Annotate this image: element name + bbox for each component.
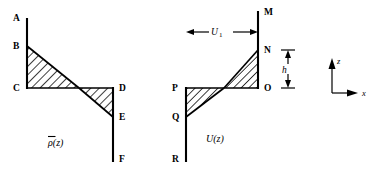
label-point-A: A xyxy=(13,13,20,23)
label-point-R: R xyxy=(172,154,179,164)
label-point-O: O xyxy=(264,83,271,93)
label-point-F: F xyxy=(119,154,125,164)
label-point-C: C xyxy=(13,83,20,93)
dimension-U1-subscript: 1 xyxy=(219,31,223,39)
density-caption: ρ(z) xyxy=(47,137,64,149)
density-caption-group: ρ(z) xyxy=(47,137,64,150)
x-axis-label: x xyxy=(361,88,366,98)
velocity-caption: U(z) xyxy=(206,133,224,145)
label-point-N: N xyxy=(264,45,271,55)
label-point-D: D xyxy=(119,83,126,93)
label-point-B: B xyxy=(13,41,20,51)
schematic-diagram: A B C D E F ρ(z) xyxy=(0,0,379,181)
z-axis-label: z xyxy=(336,56,341,66)
label-point-M: M xyxy=(264,7,273,17)
label-point-Q: Q xyxy=(172,112,179,122)
dimension-U1-label: U xyxy=(211,27,219,37)
label-point-P: P xyxy=(172,83,178,93)
dimension-h-label: h xyxy=(282,65,287,75)
figure-container: A B C D E F ρ(z) xyxy=(0,0,379,181)
label-point-E: E xyxy=(119,112,125,122)
